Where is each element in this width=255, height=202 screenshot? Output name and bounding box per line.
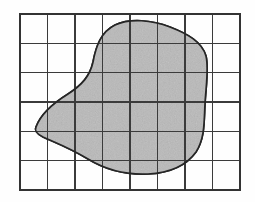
grid-region-diagram — [0, 0, 255, 202]
figure-container — [0, 0, 255, 202]
